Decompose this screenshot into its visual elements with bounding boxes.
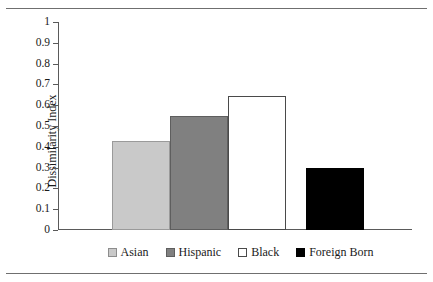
legend-label-foreign: Foreign Born <box>309 246 373 258</box>
legend-swatch-black <box>238 248 247 257</box>
y-tick-label: 0.9 <box>36 37 50 49</box>
legend-swatch-asian <box>108 248 117 257</box>
bar-group <box>58 22 370 230</box>
y-tick-label: 0.1 <box>36 203 50 215</box>
legend-item-hispanic: Hispanic <box>166 246 222 258</box>
bar-black <box>228 96 286 230</box>
figure-container: Dissimilarity Index 10.90.80.70.60.50.40… <box>0 0 433 282</box>
figure-bottom-rule <box>6 273 427 274</box>
figure-top-rule <box>6 8 427 9</box>
bar-hispanic <box>170 116 228 230</box>
legend-label-black: Black <box>251 246 279 258</box>
y-tick-label: 0.6 <box>36 99 50 111</box>
chart-legend: AsianHispanicBlackForeign Born <box>58 246 423 258</box>
y-tick-label: 0.5 <box>36 120 50 132</box>
y-tick-label: 0.8 <box>36 58 50 70</box>
legend-item-foreign: Foreign Born <box>296 246 373 258</box>
y-tick-label: 0 <box>44 224 50 236</box>
bar-asian <box>112 141 170 230</box>
y-tick-label: 0.4 <box>36 141 50 153</box>
legend-item-black: Black <box>238 246 279 258</box>
legend-label-hispanic: Hispanic <box>179 246 222 258</box>
y-tick-label: 0.3 <box>36 162 50 174</box>
legend-swatch-foreign <box>296 248 305 257</box>
bar-foreign <box>306 168 364 230</box>
y-tick-label: 1 <box>44 16 50 28</box>
y-tick-label: 0.2 <box>36 183 50 195</box>
legend-swatch-hispanic <box>166 248 175 257</box>
y-tick <box>53 230 58 231</box>
legend-label-asian: Asian <box>121 246 149 258</box>
legend-item-asian: Asian <box>108 246 149 258</box>
plot-area: 10.90.80.70.60.50.40.30.20.10 <box>58 22 370 230</box>
y-tick-label: 0.7 <box>36 79 50 91</box>
